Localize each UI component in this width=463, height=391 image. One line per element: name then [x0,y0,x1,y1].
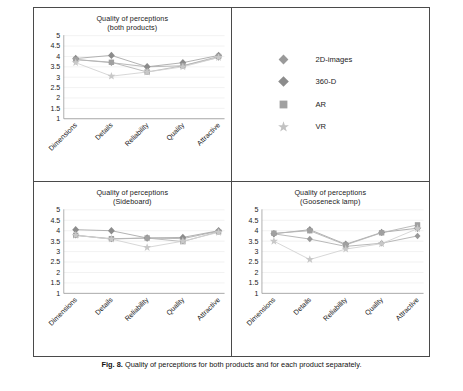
svg-text:3: 3 [56,74,60,81]
svg-text:Attractive: Attractive [394,296,420,322]
svg-text:Quality: Quality [165,296,186,318]
svg-text:Quality: Quality [165,121,186,142]
svg-text:Details: Details [94,121,115,141]
figure-caption-text: Quality of perceptions for both products… [125,360,362,369]
plot-area-sideboard: 11.522.533.544.55DimensionsDetailsReliab… [34,182,231,356]
star-marker-icon [270,120,316,133]
svg-text:Details: Details [292,296,313,317]
svg-text:Reliability: Reliability [123,121,150,148]
svg-text:Reliability: Reliability [321,296,348,323]
plot-area-both-products: 11.522.533.544.55DimensionsDetailsReliab… [34,8,231,181]
legend-label-vr: VR [316,122,327,131]
panel-legend: 2D-images 360-D [232,8,430,182]
svg-text:3.5: 3.5 [51,63,61,70]
svg-text:Dimensions: Dimensions [47,121,78,152]
diamond-marker-icon [270,53,316,66]
svg-text:4: 4 [254,227,258,234]
panel-gooseneck-lamp: Quality of perceptions (Gooseneck lamp) … [232,182,430,356]
svg-text:Quality: Quality [363,296,385,317]
legend-label-360-d: 360-D [316,77,337,86]
svg-text:3.5: 3.5 [51,238,61,245]
svg-text:2.5: 2.5 [51,84,61,91]
svg-text:5: 5 [56,206,60,213]
legend-label-2d-images: 2D-images [316,55,353,64]
svg-text:2: 2 [56,94,60,101]
legend-label-ar: AR [316,100,327,109]
legend-item-360-d: 360-D [270,77,353,87]
svg-text:1.5: 1.5 [248,279,258,286]
svg-text:Attractive: Attractive [195,296,221,322]
svg-text:2: 2 [56,269,60,276]
svg-text:4.5: 4.5 [248,217,258,224]
svg-text:5: 5 [56,32,60,39]
legend-item-2d-images: 2D-images [270,54,353,64]
panel-both-products: Quality of perceptions (both products) 1… [34,8,232,182]
svg-text:3: 3 [254,248,258,255]
svg-text:1.5: 1.5 [51,105,61,112]
legend-item-vr: VR [270,122,353,132]
chart-grid: Quality of perceptions (both products) 1… [33,7,430,357]
legend-item-ar: AR [270,99,353,109]
svg-text:Dimensions: Dimensions [245,296,276,327]
svg-text:2.5: 2.5 [248,258,258,265]
svg-text:1.5: 1.5 [51,279,61,286]
plot-area-gooseneck-lamp: 11.522.533.544.55DimensionsDetailsReliab… [232,182,430,356]
svg-text:Attractive: Attractive [195,121,221,147]
svg-text:3: 3 [56,248,60,255]
svg-text:4: 4 [56,227,60,234]
figure-container: Quality of perceptions (both products) 1… [33,7,430,370]
diamond-marker-icon [270,75,316,88]
svg-text:Details: Details [94,296,114,317]
svg-text:5: 5 [254,206,258,213]
chart-legend: 2D-images 360-D [270,54,353,132]
svg-text:1: 1 [254,290,258,297]
svg-text:3.5: 3.5 [248,238,258,245]
svg-text:1: 1 [56,290,60,297]
square-marker-icon [270,98,316,111]
figure-caption-label: Fig. 8. [102,360,123,369]
svg-text:4.5: 4.5 [51,42,61,49]
svg-text:4.5: 4.5 [51,217,61,224]
svg-text:1: 1 [56,115,60,122]
panel-sideboard: Quality of perceptions (Sideboard) 11.52… [34,182,232,356]
svg-text:Dimensions: Dimensions [47,296,78,327]
figure-caption: Fig. 8. Quality of perceptions for both … [33,360,430,369]
svg-text:4: 4 [56,53,60,60]
svg-text:2: 2 [254,269,258,276]
svg-text:Reliability: Reliability [123,296,150,323]
svg-text:2.5: 2.5 [51,258,61,265]
